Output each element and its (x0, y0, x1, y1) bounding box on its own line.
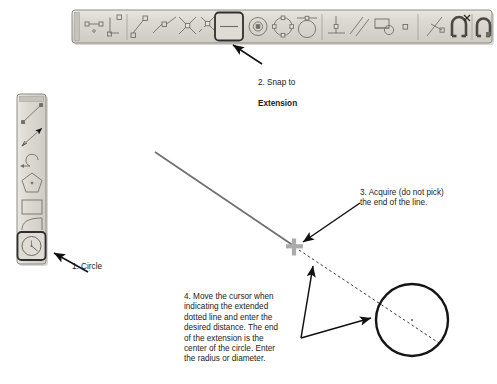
diagram-canvas: 1. Circle 2. Snap to Extension 3. Acquir… (0, 0, 497, 384)
object-snap-toolbar[interactable] (72, 10, 494, 45)
callout-2-snap-extension: 2. Snap to Extension (258, 68, 297, 120)
extension-snap-marker (286, 239, 303, 256)
leader-to-extension-button (233, 45, 262, 64)
draw-toolbar[interactable] (17, 94, 48, 266)
callout-2-line1: 2. Snap to (258, 78, 297, 88)
leader-callout4-to-marker (301, 266, 313, 338)
callout-4-move-cursor: 4. Move the cursor when indicating the e… (184, 292, 296, 365)
solid-line (155, 152, 294, 246)
callout-3-acquire-end: 3. Acquire (do not pick) the end of the … (360, 188, 497, 209)
callout-1-circle: 1. Circle (72, 262, 102, 272)
snap-extension-icon[interactable] (215, 13, 243, 41)
dotted-extension-line (299, 250, 442, 345)
circle-center-dot (411, 319, 413, 321)
callout-2-line2: Extension (258, 99, 297, 109)
leader-callout4-to-circle (301, 318, 371, 338)
draw-circle-icon[interactable] (18, 232, 46, 260)
leader-to-line-end (303, 203, 360, 242)
